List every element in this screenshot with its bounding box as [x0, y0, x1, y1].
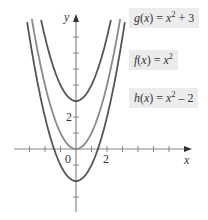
- y-tick-label-2: 2: [66, 110, 72, 125]
- graph-canvas: [0, 0, 208, 220]
- x-tick-label-2: 2: [103, 152, 109, 167]
- x-axis-arrow-icon: [184, 146, 192, 152]
- axes: [14, 14, 192, 212]
- y-axis-label: y: [64, 10, 69, 25]
- origin-label: 0: [65, 152, 71, 167]
- legend-h: h(x) = x2 – 2: [129, 88, 198, 108]
- x-axis-label: x: [184, 153, 189, 168]
- legend-f: f(x) = x2: [129, 50, 178, 70]
- legend-g: g(x) = x2 + 3: [129, 8, 199, 28]
- y-axis-arrow-icon: [73, 14, 79, 22]
